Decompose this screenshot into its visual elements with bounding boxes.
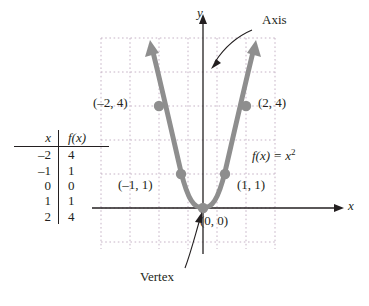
point-label-2-4: (2, 4) [258, 96, 286, 109]
table-row: –2 4 [14, 147, 109, 162]
value-table: x f(x) –2 4 –1 1 0 0 1 1 2 [14, 130, 109, 224]
point-label-1-1: (1, 1) [237, 178, 265, 191]
function-label-text: f(x) = x [252, 148, 291, 163]
table-row: 0 0 [14, 178, 109, 193]
point-label-neg2-4: (–2, 4) [93, 96, 128, 109]
axis-callout-arrow [211, 30, 252, 69]
table-cell-fx: 1 [59, 193, 110, 208]
table-header-row: x f(x) [14, 130, 109, 147]
table-cell-fx: 0 [59, 178, 110, 193]
point-label-neg1-1: (–1, 1) [118, 178, 153, 191]
table-header-x: x [14, 130, 59, 147]
point-label-0-0: (0, 0) [200, 214, 228, 227]
axis-callout-label: Axis [262, 13, 287, 26]
table-cell-x: 1 [14, 193, 59, 208]
table-cell-fx: 4 [59, 147, 110, 162]
table-cell-fx: 1 [59, 163, 110, 178]
table-cell-x: 0 [14, 178, 59, 193]
table-cell-fx: 4 [59, 209, 110, 224]
y-axis-label: y [197, 6, 203, 19]
function-label: f(x) = x2 [252, 148, 296, 162]
vertex-callout-label: Vertex [140, 270, 174, 283]
table-row: 1 1 [14, 193, 109, 208]
table-row: –1 1 [14, 163, 109, 178]
table-cell-x: 2 [14, 209, 59, 224]
table-header-fx: f(x) [59, 130, 110, 147]
table-row: 2 4 [14, 209, 109, 224]
table-cell-x: –1 [14, 163, 59, 178]
parabola-figure: y x Axis Vertex f(x) = x2 (–2, 4) (2, 4)… [0, 0, 369, 306]
x-axis-label: x [348, 199, 354, 212]
table-cell-x: –2 [14, 147, 59, 162]
function-exponent: 2 [291, 147, 296, 157]
